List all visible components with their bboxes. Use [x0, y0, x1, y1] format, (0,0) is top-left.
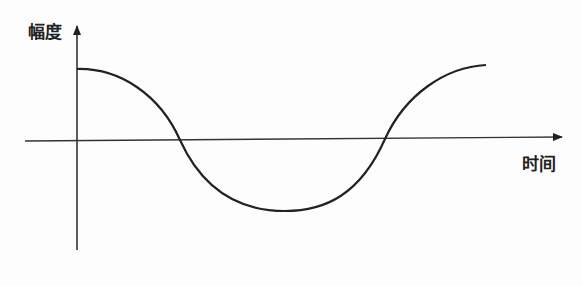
- diagram-canvas: [0, 0, 582, 286]
- x-axis: [25, 137, 562, 141]
- y-axis-label: 幅度: [28, 18, 62, 43]
- x-axis-label: 时间: [522, 150, 556, 175]
